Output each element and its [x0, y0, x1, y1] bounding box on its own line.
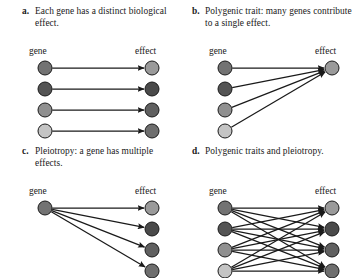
panel-b-edges	[231, 68, 325, 127]
panel-c: c.Pleiotropy: a gene has multiple effect…	[0, 140, 179, 278]
gene-node-4	[218, 264, 232, 278]
panel-a: a.Each gene has a distinct biological ef…	[0, 0, 179, 138]
panel-d-effect-nodes	[325, 201, 339, 278]
effect-node-3	[145, 243, 159, 257]
panel-d-gene-nodes	[218, 201, 232, 278]
panel-b-effect-nodes	[325, 61, 339, 75]
panel-c-gene-nodes	[38, 201, 52, 215]
effect-node-1	[325, 201, 339, 215]
effect-node-2	[145, 222, 159, 236]
gene-node-2	[218, 82, 232, 96]
effect-node-2	[325, 222, 339, 236]
effect-node-4	[145, 124, 159, 138]
panel-c-effect-nodes	[145, 201, 159, 278]
effect-node-1	[325, 61, 339, 75]
gene-node-4	[38, 124, 52, 138]
panel-a-gene-nodes	[38, 61, 52, 138]
panel-d-edges	[231, 208, 325, 271]
effect-node-4	[145, 264, 159, 278]
edge-gene1-effect2	[52, 209, 144, 227]
gene-node-3	[38, 103, 52, 117]
gene-node-1	[38, 61, 52, 75]
gene-node-1	[218, 201, 232, 215]
edge-gene4-effect1	[231, 72, 325, 127]
edge-gene1-effect4	[51, 212, 145, 267]
panel-a-graph	[0, 0, 179, 138]
gene-node-2	[218, 222, 232, 236]
edge-gene3-effect1	[232, 71, 325, 107]
edge-gene2-effect1	[232, 70, 324, 88]
gene-node-4	[218, 124, 232, 138]
panel-a-edges	[52, 68, 144, 131]
effect-node-3	[325, 243, 339, 257]
panel-c-graph	[0, 140, 179, 278]
panel-b-graph	[180, 0, 359, 138]
panel-b: b.Polygenic trait: many genes contribute…	[180, 0, 359, 138]
gene-node-3	[218, 103, 232, 117]
panel-d-graph	[180, 140, 359, 278]
gene-node-1	[218, 61, 232, 75]
effect-node-2	[145, 82, 159, 96]
effect-node-1	[145, 61, 159, 75]
panel-c-edges	[51, 208, 145, 267]
gene-node-2	[38, 82, 52, 96]
panel-d: d.Polygenic traits and pleiotropy.geneef…	[180, 140, 359, 278]
edge-gene1-effect3	[52, 211, 145, 247]
effect-node-1	[145, 201, 159, 215]
panel-a-effect-nodes	[145, 61, 159, 138]
gene-node-3	[218, 243, 232, 257]
effect-node-4	[325, 264, 339, 278]
gene-node-1	[38, 201, 52, 215]
effect-node-3	[145, 103, 159, 117]
panel-b-gene-nodes	[218, 61, 232, 138]
